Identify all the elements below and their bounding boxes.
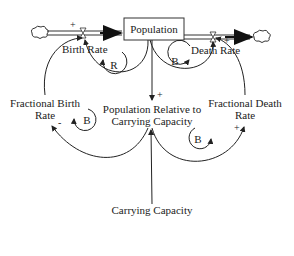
polarity-prcc-fdr: + [234,122,240,133]
stock-flow-diagram: + Birth Rate Population + Death Rate + -… [0,0,294,256]
prcc-label-line2[interactable]: Carrying Capacity [112,115,193,127]
polarity-pop-prcc: + [157,89,163,100]
fbr-label-line2[interactable]: Rate [35,109,55,121]
fdr-label-line2[interactable]: Rate [235,109,255,121]
birth-flow-pipe [47,31,122,35]
fdr-label-line1[interactable]: Fractional Death [208,97,282,109]
loop-b-death: B [168,40,190,67]
loop-r-birth: R [103,52,127,74]
svg-text:R: R [110,59,118,71]
polarity-prcc-fbr: - [58,117,61,128]
loop-b-fdr: B [189,128,211,149]
sink-cloud-icon [253,30,270,42]
svg-text:B: B [171,55,178,67]
fbr-label-line1[interactable]: Fractional Birth [10,97,80,109]
polarity-birth-in: + [70,19,76,30]
population-label: Population [130,23,178,35]
svg-text:B: B [83,114,90,126]
death-valve-icon [210,32,216,42]
loop-b-fbr: B [74,109,96,131]
svg-text:B: B [194,133,201,145]
cc-label[interactable]: Carrying Capacity [112,204,193,216]
link-cc-prcc [151,130,152,204]
source-cloud-icon [31,26,48,38]
birth-valve-icon [80,28,86,38]
prcc-label-line1[interactable]: Population Relative to [103,103,202,115]
link-prcc-fbr [52,126,148,157]
birth-rate-label[interactable]: Birth Rate [62,43,108,55]
